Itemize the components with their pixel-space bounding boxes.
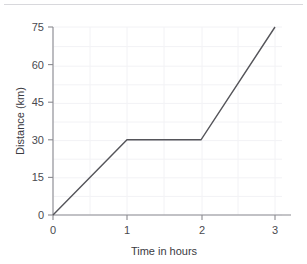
y-tick-label-30: 30 <box>32 134 44 146</box>
y-axis-ticks <box>48 27 53 215</box>
y-tick-label-45: 45 <box>32 96 44 108</box>
y-tick-label-60: 60 <box>32 59 44 71</box>
y-axis-title: Distance (km) <box>14 87 26 155</box>
x-tick-label-1: 1 <box>124 224 130 236</box>
chart-figure: 0 15 30 45 60 75 0 1 2 3 Time in hours D… <box>0 0 307 264</box>
x-tick-label-0: 0 <box>50 224 56 236</box>
y-tick-label-15: 15 <box>32 171 44 183</box>
x-axis-title: Time in hours <box>131 245 198 257</box>
plot-area-background <box>53 27 282 215</box>
x-tick-label-3: 3 <box>272 224 278 236</box>
y-tick-label-75: 75 <box>32 21 44 33</box>
y-tick-label-0: 0 <box>38 209 44 221</box>
distance-time-line-chart: 0 15 30 45 60 75 0 1 2 3 Time in hours D… <box>0 0 307 264</box>
x-axis-ticks <box>53 215 275 220</box>
x-tick-label-2: 2 <box>199 224 205 236</box>
